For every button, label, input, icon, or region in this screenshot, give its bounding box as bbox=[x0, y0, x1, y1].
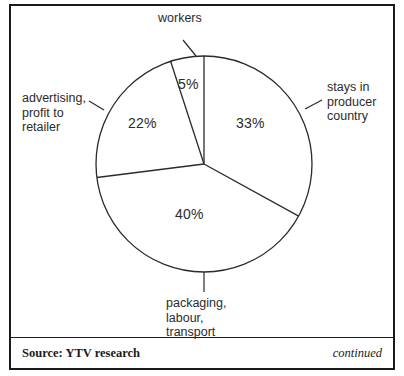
slice-label-stays-line-1: stays in bbox=[327, 80, 376, 95]
leader-line-stays bbox=[305, 100, 322, 109]
slice-label-workers: workers bbox=[158, 11, 202, 26]
slice-divider-119deg bbox=[204, 164, 299, 216]
leader-line-workers bbox=[183, 40, 196, 56]
slice-label-stays-line-3: country bbox=[327, 109, 376, 124]
slice-label-packaging-line-2: labour, bbox=[166, 311, 226, 326]
slice-label-packaging-line-1: packaging, bbox=[166, 296, 226, 311]
slice-label-advertising-line-3: retailer bbox=[22, 120, 86, 135]
slice-value-workers: 5% bbox=[178, 76, 199, 92]
source-note: Source: YTV research bbox=[22, 346, 140, 361]
slice-label-advertising-line-2: profit to bbox=[22, 106, 86, 121]
leader-line-advertising bbox=[89, 101, 104, 110]
slice-label-packaging: packaging, labour, transport bbox=[166, 296, 226, 340]
slice-value-advertising: 22% bbox=[128, 115, 157, 131]
figure-page: 33% 40% 22% 5% workers stays in producer… bbox=[0, 0, 404, 376]
slice-label-advertising-line-1: advertising, bbox=[22, 91, 86, 106]
slice-value-packaging: 40% bbox=[175, 206, 204, 222]
slice-label-stays: stays in producer country bbox=[327, 80, 376, 124]
slice-divider-263deg bbox=[97, 164, 204, 178]
slice-label-advertising: advertising, profit to retailer bbox=[22, 91, 86, 135]
slice-value-stays: 33% bbox=[236, 115, 265, 131]
continued-note: continued bbox=[333, 346, 382, 361]
slice-label-packaging-line-3: transport bbox=[166, 325, 226, 340]
slice-label-stays-line-2: producer bbox=[327, 95, 376, 110]
slice-label-workers-line-1: workers bbox=[158, 11, 202, 26]
